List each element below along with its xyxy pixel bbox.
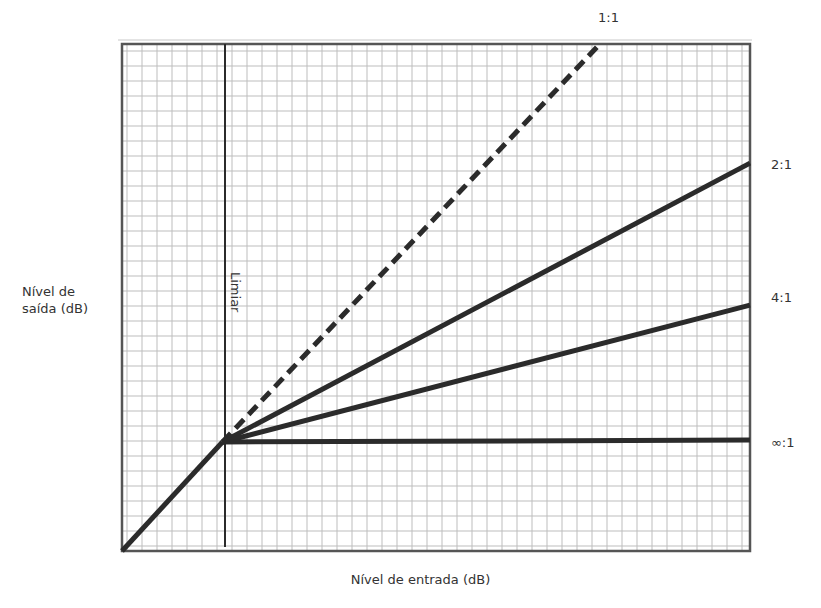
- ratio-label-1-1: 1:1: [598, 10, 619, 25]
- series-line-1-1: [222, 44, 599, 442]
- grid: [122, 44, 750, 551]
- series-group: [122, 44, 750, 551]
- series-line-2-1: [222, 163, 750, 442]
- y-axis-label: Nível de saída (dB): [22, 283, 88, 317]
- compressor-ratio-chart: Limiar: [0, 0, 821, 608]
- series-line-4-1: [222, 305, 750, 442]
- y-axis-label-line2: saída (dB): [22, 300, 88, 317]
- series-line---1: [222, 440, 750, 442]
- ratio-label-inf-1: ∞:1: [771, 435, 794, 450]
- ratio-label-2-1: 2:1: [771, 157, 792, 172]
- x-axis-label: Nível de entrada (dB): [0, 572, 821, 587]
- ratio-label-4-1: 4:1: [771, 290, 792, 305]
- plot-frame: [122, 44, 750, 551]
- threshold-label: Limiar: [228, 272, 243, 313]
- y-axis-label-line1: Nível de: [22, 283, 88, 300]
